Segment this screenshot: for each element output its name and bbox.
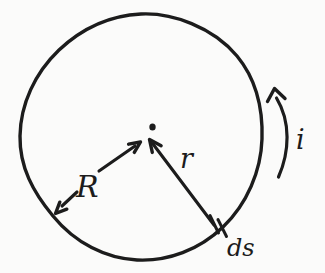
current-label: i — [296, 124, 305, 155]
ink-strokes — [20, 14, 287, 260]
current-loop-diagram: R r ds i — [0, 0, 325, 273]
center-point-dot — [149, 123, 155, 130]
ds-tick-1 — [210, 216, 219, 234]
current-direction-arrow — [268, 89, 288, 178]
hand-drawn-current-loop-figure: R r ds i — [0, 0, 325, 273]
current-arrow-arc — [277, 98, 288, 177]
radius-label: R — [75, 169, 99, 204]
position-vector-label: r — [180, 143, 195, 174]
current-element-label: ds — [227, 234, 255, 262]
radius-arrow-lower-shaft — [62, 192, 77, 206]
current-loop-circle — [20, 14, 262, 260]
radius-arrow-upper-shaft — [99, 146, 135, 171]
